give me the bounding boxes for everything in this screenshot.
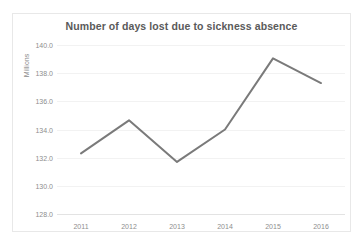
gridline	[57, 214, 345, 215]
x-axis-tick-label: 2014	[217, 223, 233, 230]
chart-container: Number of days lost due to sickness abse…	[12, 13, 351, 232]
x-axis-tick-label: 2016	[313, 223, 329, 230]
chart-title: Number of days lost due to sickness abse…	[13, 20, 350, 32]
y-axis-title: Millions	[23, 44, 30, 88]
y-axis-tick-label: 130.0	[35, 182, 53, 189]
line-series	[57, 45, 345, 214]
y-axis-tick-label: 138.0	[35, 70, 53, 77]
series-polyline	[81, 58, 321, 162]
x-axis-tick-label: 2015	[265, 223, 281, 230]
y-axis-tick-label: 136.0	[35, 98, 53, 105]
y-axis-tick-label: 134.0	[35, 126, 53, 133]
x-axis-tick-label: 2012	[121, 223, 137, 230]
x-axis-tick-label: 2011	[73, 223, 88, 230]
y-axis-tick-label: 132.0	[35, 154, 53, 161]
y-axis-tick-label: 140.0	[35, 42, 53, 49]
x-axis-tick-label: 2013	[169, 223, 185, 230]
plot-area: 128.0130.0132.0134.0136.0138.0140.0 2011…	[57, 45, 345, 214]
y-axis-tick-label: 128.0	[35, 211, 53, 218]
